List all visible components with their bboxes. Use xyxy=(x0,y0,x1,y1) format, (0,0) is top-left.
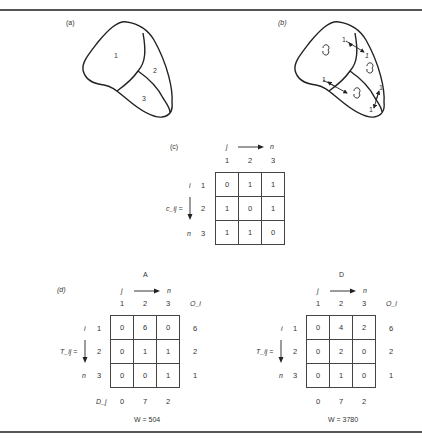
col-header: 2 xyxy=(139,300,151,308)
col-axis-start: j xyxy=(317,287,319,294)
matrix-cell: 1 xyxy=(134,340,157,364)
row-header: 2 xyxy=(289,348,301,356)
row-header: 1 xyxy=(197,182,209,190)
table-row: 0 4 2 xyxy=(307,316,376,340)
table-row: 0 1 0 xyxy=(307,364,376,388)
row-header: 3 xyxy=(93,372,105,380)
col-header: 1 xyxy=(312,300,324,308)
dest-total: 7 xyxy=(139,398,151,406)
w-value-a: W = 504 xyxy=(134,416,160,423)
table-row: 0 2 0 xyxy=(307,340,376,364)
col-header: 3 xyxy=(267,157,279,165)
flow-label: 1 xyxy=(342,36,346,43)
col-axis-arrow-icon xyxy=(134,288,160,294)
matrix-cell: 0 xyxy=(307,340,330,364)
matrix-cell: 1 xyxy=(262,173,285,197)
matrix-cell: 1 xyxy=(216,197,239,221)
row-axis-arrow-icon xyxy=(278,340,284,364)
matrix-cell: 2 xyxy=(353,316,376,340)
matrix-cell: 1 xyxy=(157,364,180,388)
origin-total: 1 xyxy=(189,372,201,380)
table-row: 0 1 1 xyxy=(216,173,285,197)
matrix-cell: 0 xyxy=(307,364,330,388)
row-axis-end: n xyxy=(82,372,86,379)
matrix-cell: 0 xyxy=(307,316,330,340)
cost-matrix-label: c_ij = xyxy=(166,205,183,212)
table-row: 0 6 0 xyxy=(111,316,180,340)
matrix-cell: 0 xyxy=(353,364,376,388)
row-header: 2 xyxy=(197,205,209,213)
flow-label: 1 xyxy=(365,52,369,59)
table-a-title: A xyxy=(143,271,148,278)
table-row: 1 0 1 xyxy=(216,197,285,221)
origin-header: O_i xyxy=(190,300,201,307)
row-axis-arrow-icon xyxy=(187,197,193,221)
row-axis-end: n xyxy=(279,372,283,379)
dest-total: 0 xyxy=(116,398,128,406)
row-axis-end: n xyxy=(187,230,191,237)
panel-c-label: (c) xyxy=(170,143,178,150)
matrix-cell: 4 xyxy=(330,316,353,340)
col-axis-arrow-icon xyxy=(238,144,264,150)
col-axis-start: j xyxy=(226,143,228,150)
table-d-title: D xyxy=(339,271,344,278)
flow-matrix-label: T_ij = xyxy=(256,348,273,355)
dest-total: 2 xyxy=(162,398,174,406)
flow-matrix-grid-d: 0 4 2 0 2 0 0 1 0 xyxy=(306,315,376,388)
cost-matrix-grid: 0 1 1 1 0 1 1 1 0 xyxy=(215,172,285,245)
col-header: 2 xyxy=(244,157,256,165)
col-axis-end: n xyxy=(363,287,367,294)
col-axis-start: j xyxy=(121,287,123,294)
matrix-cell: 6 xyxy=(134,316,157,340)
matrix-cell: 1 xyxy=(239,221,262,245)
matrix-cell: 0 xyxy=(111,364,134,388)
table-row: 0 1 1 xyxy=(111,340,180,364)
flow-label: 1 xyxy=(379,84,383,91)
dest-total: 7 xyxy=(335,398,347,406)
origin-total: 6 xyxy=(189,325,201,333)
matrix-cell: 0 xyxy=(239,197,262,221)
flow-matrix-grid-a: 0 6 0 0 1 1 0 0 1 xyxy=(110,315,180,388)
matrix-cell: 0 xyxy=(157,316,180,340)
col-header: 1 xyxy=(116,300,128,308)
row-axis-start: i xyxy=(281,325,283,332)
col-header: 2 xyxy=(335,300,347,308)
matrix-cell: 1 xyxy=(157,340,180,364)
row-header: 3 xyxy=(289,372,301,380)
origin-total: 2 xyxy=(189,348,201,356)
dest-total: 2 xyxy=(358,398,370,406)
flow-label: 1 xyxy=(322,76,326,83)
origin-total: 1 xyxy=(385,372,397,380)
origin-header: O_i xyxy=(386,300,397,307)
row-axis-start: i xyxy=(84,325,86,332)
col-axis-end: n xyxy=(270,143,274,150)
matrix-cell: 0 xyxy=(111,340,134,364)
flow-label: 1 xyxy=(369,106,373,113)
table-row: 0 0 1 xyxy=(111,364,180,388)
matrix-cell: 0 xyxy=(262,221,285,245)
row-header: 3 xyxy=(197,230,209,238)
col-header: 3 xyxy=(358,300,370,308)
row-header: 1 xyxy=(93,325,105,333)
origin-total: 2 xyxy=(385,348,397,356)
matrix-cell: 1 xyxy=(262,197,285,221)
matrix-cell: 0 xyxy=(353,340,376,364)
table-row: 1 1 0 xyxy=(216,221,285,245)
col-header: 3 xyxy=(162,300,174,308)
row-axis-start: i xyxy=(189,182,191,189)
matrix-cell: 1 xyxy=(216,221,239,245)
row-header: 2 xyxy=(93,348,105,356)
w-value-d: W = 3780 xyxy=(328,416,358,423)
col-axis-end: n xyxy=(167,287,171,294)
matrix-cell: 2 xyxy=(330,340,353,364)
matrix-cell: 1 xyxy=(239,173,262,197)
dest-total: 0 xyxy=(312,398,324,406)
flow-matrix-label: T_ij = xyxy=(60,348,77,355)
col-axis-arrow-icon xyxy=(330,288,356,294)
dest-label: D_j xyxy=(96,398,107,405)
panel-d-label: (d) xyxy=(57,286,66,293)
matrix-cell: 0 xyxy=(134,364,157,388)
matrix-cell: 0 xyxy=(216,173,239,197)
col-header: 1 xyxy=(221,157,233,165)
origin-total: 6 xyxy=(385,325,397,333)
